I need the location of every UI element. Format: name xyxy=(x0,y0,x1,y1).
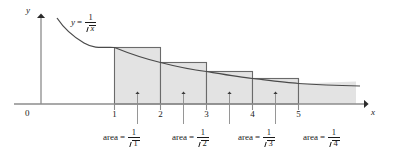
sqrt-icon: x xyxy=(86,24,95,34)
equation-equals: = xyxy=(77,17,82,27)
area-caption-2: area= 1 2 xyxy=(172,128,210,149)
riemann-rectangles xyxy=(115,48,299,105)
x-tick-label-1: 1 xyxy=(109,110,120,119)
sqrt-icon: 3 xyxy=(264,139,274,149)
sqrt-radicand: 3 xyxy=(268,139,274,149)
x-tick-label-5: 5 xyxy=(293,110,304,119)
area-numerator-1: 1 xyxy=(128,128,140,137)
area-word-4: area xyxy=(303,132,318,142)
area-equals-3: = xyxy=(255,132,260,142)
area-word-3: area xyxy=(238,132,253,142)
area-denominator-3: 3 xyxy=(263,139,275,149)
area-fraction-4: 1 4 xyxy=(328,128,340,149)
figure-riemann-sum: y x 0 1 2 3 4 5 y= 1 x area= 1 1 area= 1… xyxy=(0,0,401,168)
sqrt-icon: 1 xyxy=(129,139,139,149)
area-numerator-2: 1 xyxy=(197,128,209,137)
area-caption-3: area= 1 3 xyxy=(238,128,276,149)
area-fraction-1: 1 1 xyxy=(128,128,140,149)
equation-numerator: 1 xyxy=(85,13,96,22)
area-equals-2: = xyxy=(189,132,194,142)
sqrt-radicand: x xyxy=(90,24,95,34)
area-equals-1: = xyxy=(120,132,125,142)
sqrt-icon: 2 xyxy=(198,139,208,149)
equation-lhs: y xyxy=(71,17,75,27)
sqrt-radicand: 2 xyxy=(202,139,208,149)
y-axis-label: y xyxy=(26,6,30,15)
area-word-1: area xyxy=(103,132,118,142)
area-fraction-2: 1 2 xyxy=(197,128,209,149)
origin-label: 0 xyxy=(25,109,30,118)
area-caption-1: area= 1 1 xyxy=(103,128,141,149)
x-tick-label-4: 4 xyxy=(247,110,258,119)
sqrt-radicand: 1 xyxy=(133,139,139,149)
equation-fraction: 1 x xyxy=(85,13,96,34)
equation-denominator: x xyxy=(85,24,96,34)
area-word-2: area xyxy=(172,132,187,142)
curve-equation-label: y= 1 x xyxy=(71,13,97,34)
area-caption-4: area= 1 4 xyxy=(303,128,341,149)
area-numerator-3: 1 xyxy=(263,128,275,137)
sqrt-icon: 4 xyxy=(329,139,339,149)
area-fraction-3: 1 3 xyxy=(263,128,275,149)
area-equals-4: = xyxy=(320,132,325,142)
x-tick-label-3: 3 xyxy=(201,110,212,119)
x-axis-label: x xyxy=(371,108,375,117)
area-denominator-1: 1 xyxy=(128,139,140,149)
x-tick-label-2: 2 xyxy=(155,110,166,119)
area-denominator-4: 4 xyxy=(328,139,340,149)
area-numerator-4: 1 xyxy=(328,128,340,137)
sqrt-radicand: 4 xyxy=(333,139,339,149)
area-denominator-2: 2 xyxy=(197,139,209,149)
curve-tail-shading xyxy=(299,79,357,105)
